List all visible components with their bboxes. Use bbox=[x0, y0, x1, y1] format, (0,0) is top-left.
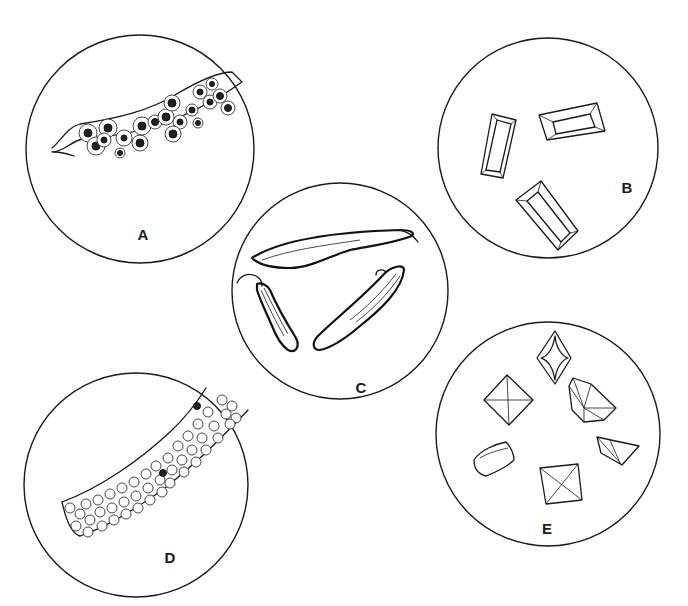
curved-crystal-left bbox=[237, 274, 298, 351]
curved-crystal-top bbox=[252, 230, 418, 268]
prism-crystal-1 bbox=[481, 114, 516, 178]
panel-d bbox=[24, 373, 248, 597]
panel-label-d: D bbox=[165, 549, 176, 566]
cellular-cast-a bbox=[52, 72, 242, 158]
panel-label-c: C bbox=[356, 379, 367, 396]
square-envelope-crystal bbox=[540, 464, 582, 504]
irregular-crystal-left bbox=[474, 442, 514, 476]
prism-crystal-2 bbox=[539, 103, 605, 140]
panel-b-circle bbox=[438, 38, 658, 258]
prism-crystal-3 bbox=[516, 181, 578, 250]
small-pyramid-right bbox=[597, 437, 639, 465]
panel-c-circle bbox=[232, 183, 448, 399]
figure-canvas bbox=[0, 0, 688, 606]
panel-e-circle bbox=[436, 322, 660, 546]
panel-c bbox=[232, 183, 448, 399]
panel-b bbox=[438, 38, 658, 258]
panel-label-e: E bbox=[542, 520, 552, 537]
panel-label-b: B bbox=[622, 179, 633, 196]
curved-crystal-right bbox=[314, 266, 404, 350]
octahedron-left bbox=[484, 375, 533, 425]
panel-label-a: A bbox=[138, 226, 149, 243]
envelope-crystal-top bbox=[537, 331, 571, 384]
panel-e bbox=[436, 322, 660, 546]
complex-crystal-right bbox=[569, 378, 616, 422]
round-cells bbox=[65, 395, 241, 537]
